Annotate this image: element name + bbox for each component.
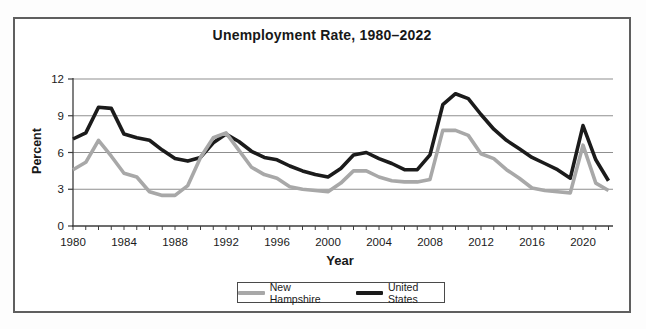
x-tick-label-2012: 2012: [468, 236, 494, 248]
legend-line-swatch-new-hampshire: [238, 291, 265, 295]
series-line-new-hampshire: [73, 130, 609, 195]
legend-line-swatch-united-states: [356, 291, 383, 295]
x-tick-label-1988: 1988: [162, 236, 188, 248]
y-tick-label-6: 6: [58, 147, 64, 159]
y-tick-label-9: 9: [58, 110, 64, 122]
x-tick-label-2004: 2004: [366, 236, 392, 248]
legend-label-new-hampshire: New Hampshire: [270, 281, 337, 305]
x-tick-label-1984: 1984: [111, 236, 137, 248]
x-tick-label-1996: 1996: [264, 236, 290, 248]
x-tick-label-1992: 1992: [213, 236, 239, 248]
y-tick-label-12: 12: [51, 73, 64, 85]
y-tick-label-3: 3: [58, 183, 64, 195]
chart-figure: Unemployment Rate, 1980–2022 03691219801…: [0, 0, 646, 329]
chart-legend: New Hampshire United States: [237, 282, 445, 303]
y-tick-label-0: 0: [58, 220, 64, 232]
x-tick-label-2020: 2020: [570, 236, 596, 248]
x-axis-label: Year: [240, 253, 440, 268]
x-tick-label-2000: 2000: [315, 236, 341, 248]
x-tick-label-2016: 2016: [519, 236, 545, 248]
series-line-united-states: [73, 94, 609, 181]
legend-item-united-states: United States: [356, 281, 444, 305]
legend-label-united-states: United States: [388, 281, 444, 305]
x-tick-label-2008: 2008: [417, 236, 443, 248]
legend-item-new-hampshire: New Hampshire: [238, 281, 336, 305]
x-tick-label-1980: 1980: [60, 236, 86, 248]
y-axis-label: Percent: [30, 123, 46, 179]
